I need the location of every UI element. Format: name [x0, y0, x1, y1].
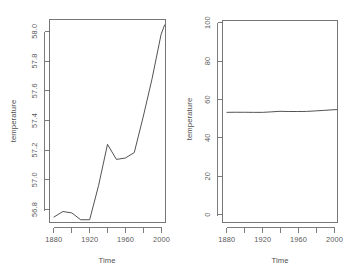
y-tick-label: 57.4	[30, 113, 39, 128]
x-tick-label: 1920	[254, 235, 271, 244]
x-axis-title-left: Time	[98, 256, 115, 265]
y-tick-label: 20	[203, 172, 212, 181]
figure-canvas: 56.8 57.0 57.2 57.4 57.6 57.8 58.0 tempe…	[0, 0, 352, 277]
x-tick-label: 1960	[117, 235, 134, 244]
y-tick-label: 57.2	[30, 143, 39, 158]
y-tick-label: 0	[203, 212, 212, 216]
y-tick-label: 56.8	[30, 202, 39, 217]
y-tick-label: 57.0	[30, 172, 39, 187]
x-tick-label: 2000	[153, 235, 170, 244]
y-tick-label: 60	[203, 95, 212, 104]
y-tick-label: 100	[203, 16, 212, 29]
plot-frame-right	[223, 21, 338, 223]
x-tick-label: 1960	[290, 235, 307, 244]
y-tick-marks-left	[45, 31, 50, 209]
y-tick-marks-right	[218, 23, 223, 215]
y-tick-label: 58.0	[30, 24, 39, 39]
plot-frame-left	[50, 20, 166, 223]
temperature-series-line-right	[227, 110, 337, 113]
y-axis-title-left: temperature	[9, 100, 18, 143]
y-tick-label: 57.8	[30, 54, 39, 69]
x-tick-label: 1920	[81, 235, 98, 244]
x-tick-label: 2000	[326, 235, 343, 244]
x-tick-marks-right	[227, 228, 335, 233]
chart-panel-right: 0 20 40 60 80 100 temperature	[176, 0, 352, 277]
temperature-series-line-left	[54, 25, 165, 220]
y-tick-label: 40	[203, 134, 212, 143]
x-tick-labels-left: 1880 1920 1960 2000	[45, 235, 170, 244]
y-tick-labels-right: 0 20 40 60 80 100	[203, 16, 212, 217]
y-tick-label: 57.6	[30, 83, 39, 98]
x-tick-labels-right: 1880 1920 1960 2000	[218, 235, 343, 244]
x-tick-label: 1880	[45, 235, 62, 244]
x-tick-marks-left	[54, 228, 162, 233]
y-tick-labels-left: 56.8 57.0 57.2 57.4 57.6 57.8 58.0	[30, 24, 39, 217]
y-tick-label: 80	[203, 57, 212, 66]
y-axis-title-right: temperature	[185, 98, 194, 141]
x-tick-label: 1880	[218, 235, 235, 244]
x-axis-title-right: Time	[271, 256, 288, 265]
chart-panel-left: 56.8 57.0 57.2 57.4 57.6 57.8 58.0 tempe…	[0, 0, 176, 277]
